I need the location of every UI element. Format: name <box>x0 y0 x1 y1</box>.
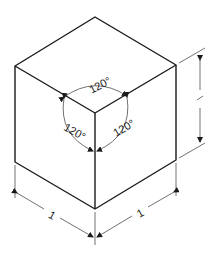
right-width-label: 1 <box>134 206 145 219</box>
right-angle-label: 120° <box>111 117 137 139</box>
isometric-cube-diagram: 120° 120° 120° 1 1 1 <box>0 0 212 258</box>
height-dimension <box>179 48 205 158</box>
top-angle-label: 120° <box>87 74 113 95</box>
left-width-label: 1 <box>46 208 57 221</box>
left-angle-label: 120° <box>62 121 88 143</box>
cube <box>15 17 176 209</box>
cube-top-face <box>15 17 176 113</box>
